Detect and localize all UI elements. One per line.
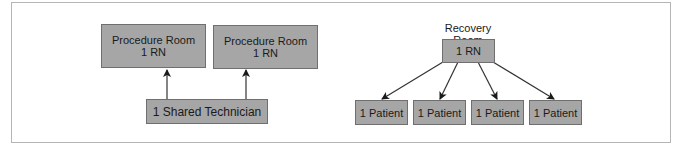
patient-2-label: 1 Patient	[418, 107, 461, 119]
procedure-room-1-staff: 1 RN	[141, 46, 166, 58]
patient-4-box: 1 Patient	[529, 100, 582, 125]
arrow-rn-to-patient-1	[382, 62, 443, 99]
procedure-room-1-title: Procedure Room	[112, 34, 195, 46]
recovery-rn-box: 1 RN	[442, 39, 495, 63]
procedure-room-2-title: Procedure Room	[224, 35, 307, 47]
shared-technician-label: 1 Shared Technician	[153, 106, 262, 118]
arrow-rn-to-patient-4	[493, 62, 554, 99]
shared-technician-box: 1 Shared Technician	[146, 99, 268, 124]
patient-3-box: 1 Patient	[471, 100, 524, 125]
patient-1-label: 1 Patient	[360, 107, 403, 119]
procedure-room-2-box: Procedure Room 1 RN	[213, 25, 318, 69]
procedure-room-2-staff: 1 RN	[253, 47, 278, 59]
patient-4-label: 1 Patient	[534, 107, 577, 119]
patient-3-label: 1 Patient	[476, 107, 519, 119]
arrow-rn-to-patient-2	[440, 62, 458, 99]
patient-2-box: 1 Patient	[413, 100, 466, 125]
arrows-layer	[0, 0, 680, 151]
procedure-room-1-box: Procedure Room 1 RN	[101, 24, 206, 68]
patient-1-box: 1 Patient	[355, 100, 408, 125]
arrow-rn-to-patient-3	[478, 62, 497, 99]
recovery-rn-label: 1 RN	[456, 45, 481, 57]
